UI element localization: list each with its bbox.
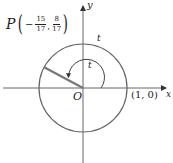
arc-length-label: t	[97, 34, 101, 43]
origin-label: O	[73, 91, 82, 102]
x-coordinate-fraction: 15 17	[35, 16, 46, 33]
y-axis-label: y	[87, 0, 93, 10]
unit-circle-diagram: P ( − 15 17 , 8 17 ) y x O t t (1, 0)	[0, 0, 173, 163]
point-P-label: P ( − 15 17 , 8 17 )	[6, 13, 70, 35]
point-1-0-label: (1, 0)	[131, 90, 158, 100]
y-coordinate-fraction: 8 17	[52, 16, 61, 33]
angle-label: t	[88, 61, 92, 70]
x-axis-label: x	[166, 90, 171, 99]
point-name: P	[6, 16, 15, 32]
radius-to-P	[44, 67, 83, 88]
